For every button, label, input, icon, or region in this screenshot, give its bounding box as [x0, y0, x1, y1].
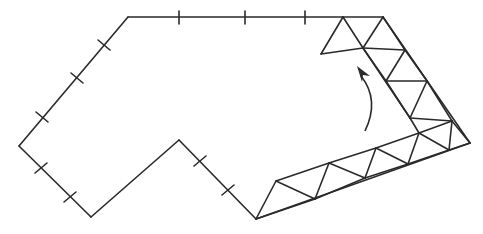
- triangulated-truss-strip: [256, 17, 470, 219]
- truss-member: [449, 121, 452, 150]
- truss-member: [321, 17, 343, 54]
- truss-member: [276, 181, 315, 199]
- outline-edge: [91, 140, 179, 217]
- truss-polygon-diagram: [0, 0, 483, 234]
- truss-member: [419, 133, 449, 150]
- truss-member: [329, 163, 365, 178]
- truss-member: [410, 118, 452, 121]
- edge-tick-marks: [35, 11, 305, 202]
- truss-member: [376, 133, 419, 148]
- truss-member: [363, 48, 405, 50]
- truss-member: [383, 17, 470, 143]
- truss-member: [376, 148, 408, 164]
- truss-member: [365, 164, 408, 178]
- truss-member: [321, 48, 363, 54]
- curved-rotation-arrow-icon: [357, 66, 372, 131]
- truss-member: [408, 133, 419, 164]
- outline-edge: [19, 17, 128, 146]
- outline-edge: [179, 140, 256, 219]
- truss-member: [329, 148, 376, 163]
- arrow-shaft: [361, 76, 372, 131]
- outline-edge: [19, 146, 91, 217]
- truss-member: [410, 118, 419, 133]
- truss-member: [276, 163, 329, 181]
- diagram-canvas: [0, 0, 483, 234]
- truss-member: [343, 17, 363, 48]
- truss-member: [419, 121, 452, 133]
- truss-member: [363, 48, 410, 118]
- truss-member: [386, 50, 405, 81]
- truss-member: [363, 17, 383, 48]
- truss-member: [256, 143, 470, 219]
- truss-member: [410, 81, 427, 118]
- truss-member: [365, 148, 376, 178]
